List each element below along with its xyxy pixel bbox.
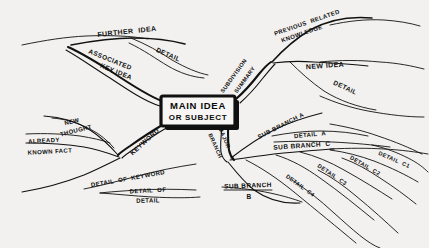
branch-line-further-idea-upper [22, 36, 148, 45]
branch-line-new-idea-detail-lower [320, 96, 424, 117]
label-detail-c1: DETAIL C1 [377, 150, 410, 169]
branch-line-detail-of-keyword [22, 158, 120, 192]
label-new-thought-line1: NEW [64, 117, 80, 126]
label-already-line1: ALREADY [28, 137, 60, 145]
label-detail-of-detail-line1: DETAIL OF [129, 187, 166, 195]
branch-line-further-idea-detail-lower [129, 43, 204, 78]
center-node[interactable]: MAIN IDEA OR SUBJECT [161, 96, 239, 130]
branch-line-new-idea-detail [290, 62, 376, 110]
label-already-line2: KNOWN FACT [28, 147, 73, 155]
label-detail-of-detail-line2: DETAIL [136, 197, 160, 203]
label-detail-of-keyword: DETAIL OF KEYWORD [90, 169, 165, 188]
center-node-line2: OR SUBJECT [169, 113, 228, 122]
label-detail-c3: DETAIL C3 [317, 163, 349, 187]
label-keyword: KEYWORD [128, 127, 160, 157]
branch-line-previous-knowledge-upper [330, 20, 420, 26]
branch-detail-of-keyword [22, 158, 196, 192]
label-sub-branch-b-line2: B [246, 193, 251, 200]
branch-detail-c3 [276, 155, 398, 233]
center-node-line1: MAIN IDEA [170, 100, 226, 111]
label-detail-a: DETAIL A [294, 130, 327, 139]
mindmap-drawing: MAIN IDEA OR SUBJECT FURTHER IDEA DETAIL… [0, 0, 429, 248]
label-detail-c4: DETAIL C4 [285, 173, 316, 198]
branch-line-sub-branch-c [230, 149, 334, 160]
branch-line-detail-a-upper [330, 124, 422, 154]
label-sub-branch-b-line1: SUB BRANCH [224, 181, 272, 190]
mindmap-canvas: MAIN IDEA OR SUBJECT FURTHER IDEA DETAIL… [0, 0, 429, 248]
branch-associated-key-idea [66, 47, 162, 106]
branch-line-further-idea [71, 38, 185, 45]
label-new-idea-detail: DETAIL [332, 79, 358, 96]
branch-line-detail-c3-under [318, 170, 398, 233]
label-new-idea: NEW IDEA [306, 61, 345, 71]
